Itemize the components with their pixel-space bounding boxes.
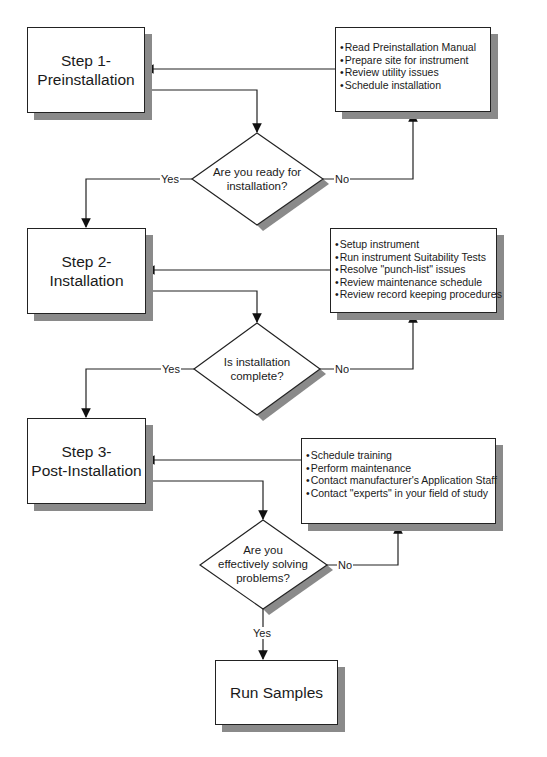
info-1-item: Schedule installation [340, 79, 486, 92]
step-3-title: Step 3- [31, 442, 141, 461]
info-3-item: Perform maintenance [306, 462, 491, 475]
info-3-item: Schedule training [306, 449, 491, 462]
info-3-item: Contact "experts" in your field of study [306, 487, 491, 500]
step-2-subtitle: Installation [49, 271, 123, 290]
info-box-post-installation: Schedule training Perform maintenance Co… [301, 438, 496, 524]
decision-1-yes-label: Yes [160, 173, 180, 185]
info-box-preinstallation: Read Preinstallation Manual Prepare site… [335, 27, 491, 112]
step-2-box: Step 2-Installation [27, 228, 146, 314]
info-3-item: Contact manufacturer's Application Staff [306, 474, 491, 487]
decision-2-no-label: No [334, 363, 350, 375]
decision-1-no-label: No [334, 173, 350, 185]
step-1-box: Step 1-Preinstallation [27, 27, 145, 113]
info-2-item: Review maintenance schedule [335, 276, 492, 289]
step-3-box: Step 3-Post-Installation [27, 418, 146, 504]
step-2-title: Step 2- [49, 252, 123, 271]
info-1-item: Review utility issues [340, 66, 486, 79]
decision-3-yes-label: Yes [252, 627, 272, 639]
step-1-title: Step 1- [37, 51, 134, 70]
decision-2-text: Is installation complete? [202, 355, 312, 383]
info-2-item: Resolve "punch-list" issues [335, 263, 492, 276]
decision-1-text: Are you ready for installation? [202, 165, 312, 193]
info-2-item: Run instrument Suitability Tests [335, 251, 492, 264]
info-1-item: Prepare site for instrument [340, 54, 486, 67]
step-1-subtitle: Preinstallation [37, 70, 134, 89]
step-3-subtitle: Post-Installation [31, 461, 141, 480]
info-box-installation: Setup instrument Run instrument Suitabil… [330, 228, 497, 313]
run-samples-box: Run Samples [215, 660, 338, 725]
run-samples-label: Run Samples [230, 683, 323, 702]
info-1-item: Read Preinstallation Manual [340, 41, 486, 54]
decision-2-yes-label: Yes [161, 363, 181, 375]
info-2-item: Setup instrument [335, 238, 492, 251]
decision-3-no-label: No [337, 559, 353, 571]
decision-3-text: Are you effectively solving problems? [208, 543, 318, 585]
info-2-item: Review record keeping procedures [335, 288, 492, 301]
